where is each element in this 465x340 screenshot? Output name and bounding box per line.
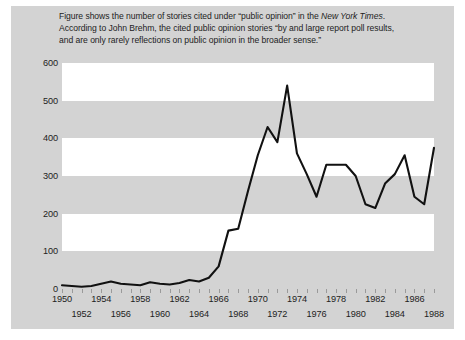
x-axis-tick — [150, 289, 151, 293]
x-axis-tick-label: 1952 — [72, 309, 92, 319]
x-axis-tick — [405, 289, 406, 293]
x-axis-tick — [199, 289, 200, 293]
x-axis-tick — [228, 289, 229, 293]
x-axis-tick-label: 1982 — [365, 294, 385, 304]
data-line-svg — [62, 63, 434, 289]
x-axis-tick — [395, 289, 396, 293]
x-axis-tick-label: 1986 — [404, 294, 424, 304]
x-axis-tick-label: 1970 — [248, 294, 268, 304]
caption-italic-run: New York Times — [321, 11, 383, 21]
x-axis-tick — [248, 289, 249, 293]
x-axis-tick — [424, 289, 425, 293]
y-axis-tick-label: 100 — [16, 246, 58, 256]
x-axis-tick-label: 1984 — [385, 309, 405, 319]
x-axis: 1950195419581962196619701974197819821986… — [62, 289, 434, 325]
plot-wrapper — [62, 63, 434, 289]
x-axis-tick — [170, 289, 171, 293]
x-axis-tick — [277, 289, 278, 293]
x-axis-tick-label: 1954 — [91, 294, 111, 304]
x-axis-tick — [62, 289, 63, 293]
x-axis-tick — [140, 289, 141, 293]
x-axis-tick — [91, 289, 92, 293]
x-axis-tick-label: 1956 — [111, 309, 131, 319]
x-axis-tick — [131, 289, 132, 293]
x-axis-tick — [287, 289, 288, 293]
x-axis-tick-label: 1966 — [209, 294, 229, 304]
x-axis-tick-label: 1962 — [169, 294, 189, 304]
y-axis-tick-label: 600 — [16, 58, 58, 68]
x-axis-tick — [414, 289, 415, 293]
y-axis-labels: 0100200300400500600 — [16, 63, 58, 289]
x-axis-tick-label: 1976 — [306, 309, 326, 319]
caption-line-1: Figure shows the number of stories cited… — [59, 11, 449, 23]
caption-text-run: and are only rarely reflections on publi… — [59, 35, 321, 45]
x-axis-tick-label: 1968 — [228, 309, 248, 319]
x-axis-tick — [375, 289, 376, 293]
x-axis-tick — [111, 289, 112, 293]
x-axis-tick — [238, 289, 239, 293]
caption-text-run: . — [383, 11, 385, 21]
x-axis-tick — [297, 289, 298, 293]
x-axis-tick — [346, 289, 347, 293]
x-axis-tick — [326, 289, 327, 293]
caption-line-2: According to John Brehm, the cited publi… — [59, 23, 449, 35]
x-axis-tick — [307, 289, 308, 293]
x-axis-tick — [434, 289, 435, 293]
x-axis-tick-label: 1960 — [150, 309, 170, 319]
x-axis-tick — [209, 289, 210, 293]
x-axis-tick — [336, 289, 337, 293]
x-axis-tick-label: 1974 — [287, 294, 307, 304]
y-axis-tick-label: 200 — [16, 209, 58, 219]
x-axis-tick — [385, 289, 386, 293]
x-axis-tick — [219, 289, 220, 293]
figure-panel: Figure shows the number of stories cited… — [11, 6, 454, 329]
x-axis-tick-label: 1988 — [424, 309, 444, 319]
x-axis-tick-label: 1964 — [189, 309, 209, 319]
caption-text-run: According to John Brehm, the cited publi… — [59, 23, 394, 33]
series-polyline — [62, 86, 434, 287]
y-axis-tick-label: 400 — [16, 133, 58, 143]
x-axis-tick-label: 1978 — [326, 294, 346, 304]
figure-root: Figure shows the number of stories cited… — [0, 0, 465, 340]
x-axis-tick — [160, 289, 161, 293]
x-axis-tick — [72, 289, 73, 293]
y-axis-tick-label: 500 — [16, 96, 58, 106]
x-axis-tick — [268, 289, 269, 293]
x-axis-tick — [365, 289, 366, 293]
x-axis-tick-label: 1980 — [346, 309, 366, 319]
x-axis-tick-label: 1958 — [130, 294, 150, 304]
figure-caption: Figure shows the number of stories cited… — [59, 11, 449, 47]
caption-text-run: Figure shows the number of stories cited… — [59, 11, 321, 21]
x-axis-tick — [179, 289, 180, 293]
x-axis-tick — [317, 289, 318, 293]
x-axis-tick — [82, 289, 83, 293]
y-axis-tick-label: 0 — [16, 284, 58, 294]
x-axis-tick-label: 1972 — [267, 309, 287, 319]
x-axis-tick — [121, 289, 122, 293]
x-axis-tick — [356, 289, 357, 293]
x-axis-tick — [258, 289, 259, 293]
x-axis-tick — [101, 289, 102, 293]
y-axis-tick-label: 300 — [16, 171, 58, 181]
x-axis-tick — [189, 289, 190, 293]
caption-line-3: and are only rarely reflections on publi… — [59, 35, 449, 47]
x-axis-tick-label: 1950 — [52, 294, 72, 304]
